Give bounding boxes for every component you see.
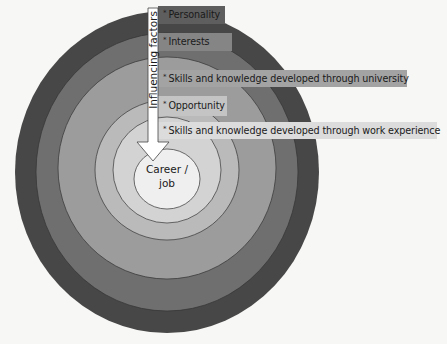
factor-label-university: *Skills and knowledge developed through … <box>158 70 415 87</box>
factor-text: Skills and knowledge developed through u… <box>168 73 408 84</box>
factor-label-interests: *Interests <box>158 33 215 50</box>
center-label: Career / job <box>134 162 200 190</box>
factor-text: Skills and knowledge developed through w… <box>168 125 440 136</box>
factor-text: Personality <box>168 9 220 20</box>
bullet-icon: * <box>163 100 166 108</box>
bullet-icon: * <box>163 125 166 133</box>
factor-label-opportunity: *Opportunity <box>158 97 231 114</box>
bullet-icon: * <box>163 73 166 81</box>
factor-label-work-experience: *Skills and knowledge developed through … <box>158 122 446 139</box>
factor-text: Interests <box>168 36 209 47</box>
arrow-label: Influencing factors <box>147 11 159 109</box>
center-label-line1: Career / <box>134 162 200 176</box>
factor-text: Opportunity <box>168 100 224 111</box>
center-label-line2: job <box>134 176 200 190</box>
factor-label-personality: *Personality <box>158 6 226 23</box>
concentric-circles-diagram <box>0 0 447 344</box>
bullet-icon: * <box>163 36 166 44</box>
bullet-icon: * <box>163 9 166 17</box>
